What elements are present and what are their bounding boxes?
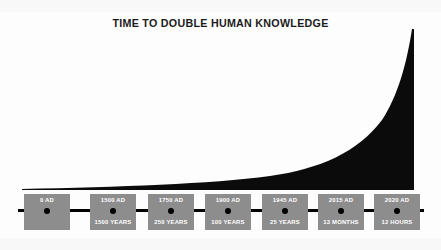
- timeline-dot: [168, 208, 174, 214]
- timeline-span-label: 13 MONTHS: [319, 218, 363, 225]
- timeline-dot: [338, 208, 344, 214]
- timeline-year-label: 2015 AD: [319, 196, 363, 203]
- timeline-year-label: 1500 AD: [91, 196, 135, 203]
- timeline-year-label: 2020 AD: [375, 196, 419, 203]
- timeline-year-label: 1945 AD: [263, 196, 307, 203]
- timeline-node-0[interactable]: 0 AD: [24, 194, 70, 230]
- timeline-node-1[interactable]: 1500 AD 1500 YEARS: [90, 194, 136, 230]
- timeline-dot: [394, 208, 400, 214]
- timeline-node-3[interactable]: 1900 AD 100 YEARS: [205, 194, 251, 230]
- timeline-year-label: 1900 AD: [206, 196, 250, 203]
- timeline-year-label: 1750 AD: [149, 196, 193, 203]
- timeline-span-label: 25 YEARS: [263, 218, 307, 225]
- timeline-span-label: 250 YEARS: [149, 218, 193, 225]
- timeline-node-2[interactable]: 1750 AD 250 YEARS: [148, 194, 194, 230]
- timeline-year-label: 0 AD: [25, 196, 69, 203]
- timeline-node-5[interactable]: 2015 AD 13 MONTHS: [318, 194, 364, 230]
- infographic-canvas: TIME TO DOUBLE HUMAN KNOWLEDGE 0 AD 1500…: [0, 0, 441, 250]
- timeline-dot: [282, 208, 288, 214]
- timeline-span-label: 1500 YEARS: [91, 218, 135, 225]
- timeline-dot: [225, 208, 231, 214]
- timeline: 0 AD 1500 AD 1500 YEARS 1750 AD 250 YEAR…: [0, 0, 441, 250]
- timeline-node-6[interactable]: 2020 AD 12 HOURS: [374, 194, 420, 230]
- timeline-dot: [44, 208, 50, 214]
- timeline-node-4[interactable]: 1945 AD 25 YEARS: [262, 194, 308, 230]
- timeline-span-label: 100 YEARS: [206, 218, 250, 225]
- timeline-dot: [110, 208, 116, 214]
- timeline-span-label: 12 HOURS: [375, 218, 419, 225]
